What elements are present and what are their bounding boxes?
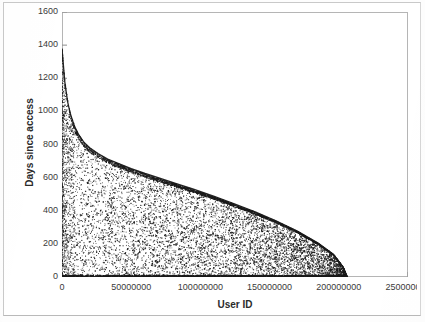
y-tick-label: 0 <box>12 272 58 281</box>
x-tick-label: 100000000 <box>178 283 223 292</box>
y-tick-label: 1600 <box>12 7 58 16</box>
y-tick-label: 600 <box>12 173 58 182</box>
y-tick-label: 1400 <box>12 40 58 49</box>
y-axis-title: Days since access <box>24 68 35 218</box>
y-tick-label: 400 <box>12 206 58 215</box>
x-tick-label: 200000000 <box>316 283 361 292</box>
y-tick-label: 800 <box>12 140 58 149</box>
y-tick-label: 1000 <box>12 106 58 115</box>
envelope-curve <box>62 48 347 277</box>
x-tick-label: 150000000 <box>247 283 292 292</box>
y-tick-label: 200 <box>12 239 58 248</box>
tick-marks <box>62 12 408 277</box>
y-tick-label: 1200 <box>12 73 58 82</box>
x-tick-label: 0 <box>59 283 64 292</box>
x-tick-label: 250000000 <box>385 283 417 292</box>
x-tick-label: 50000000 <box>111 283 151 292</box>
figure-container: 02004006008001000120014001600 0500000001… <box>0 0 425 322</box>
x-axis-tick-labels: 0500000001000000001500000002000000002500… <box>0 283 425 297</box>
x-axis-title: User ID <box>62 299 408 310</box>
data-points <box>62 48 348 277</box>
scatter-plot-canvas <box>62 12 408 277</box>
